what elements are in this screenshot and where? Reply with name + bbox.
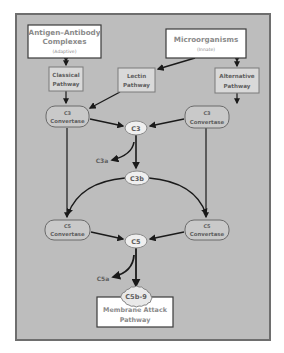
edge-c5-c5a xyxy=(113,255,134,277)
edge-micro-lectin xyxy=(158,58,195,69)
edge-lectin-c3conv xyxy=(90,92,120,108)
c3-convertase-left-line1: C3 xyxy=(64,110,72,116)
c3b-label: C3b xyxy=(130,175,144,183)
complement-pathway-diagram: Antigen–Antibody Complexes (Adaptive) Mi… xyxy=(0,0,284,353)
node-c3: C3 xyxy=(125,121,147,135)
classical-line2: Pathway xyxy=(53,81,80,88)
node-c3-convertase-left: C3 Convertase xyxy=(46,106,89,127)
node-classical-pathway: Classical Pathway xyxy=(49,67,83,91)
edge-c3-c3a xyxy=(112,142,134,160)
c5-convertase-right-line1: C5 xyxy=(203,223,211,229)
c3-label: C3 xyxy=(131,125,140,133)
node-c3-convertase-right: C3 Convertase xyxy=(185,106,229,128)
microorganisms-line1: Microorganisms xyxy=(174,35,238,44)
node-c5-convertase-left: C5 Convertase xyxy=(45,220,90,240)
c3-convertase-right-line1: C3 xyxy=(203,110,211,116)
alternative-line1: Alternative xyxy=(219,73,254,79)
membrane-attack-line2: Pathway xyxy=(120,316,151,324)
edge-c3b-c5convleft xyxy=(68,178,125,214)
node-alternative-pathway: Alternative Pathway xyxy=(215,68,259,93)
antigen-antibody-line1: Antigen–Antibody xyxy=(29,28,101,37)
node-c5: C5 xyxy=(125,234,147,248)
node-c5-convertase-right: C5 Convertase xyxy=(185,220,229,240)
edge-c3convright-c3 xyxy=(150,119,184,126)
c5-label: C5 xyxy=(131,238,141,246)
edge-c5convright-c5 xyxy=(150,232,184,239)
classical-line1: Classical xyxy=(52,72,79,78)
alternative-line2: Pathway xyxy=(224,83,251,90)
antigen-antibody-sub: (Adaptive) xyxy=(53,49,77,54)
antigen-antibody-line2: Complexes xyxy=(43,37,87,46)
c5b9-label: C5b-9 xyxy=(125,293,147,301)
node-microorganisms: Microorganisms (Innate) xyxy=(166,29,246,58)
node-c3b: C3b xyxy=(125,171,149,185)
c3a-label: C3a xyxy=(96,157,109,164)
microorganisms-sub: (Innate) xyxy=(197,47,215,52)
edge-c5convleft-c5 xyxy=(91,232,123,239)
c3-convertase-left-line2: Convertase xyxy=(50,118,85,124)
node-antigen-antibody-complexes: Antigen–Antibody Complexes (Adaptive) xyxy=(28,25,101,58)
node-lectin-pathway: Lectin Pathway xyxy=(118,68,155,92)
lectin-line1: Lectin xyxy=(127,73,146,79)
c3-convertase-right-line2: Convertase xyxy=(190,119,225,125)
edge-c3convleft-c3 xyxy=(90,119,123,126)
c5-convertase-right-line2: Convertase xyxy=(190,231,225,237)
lectin-line2: Pathway xyxy=(123,82,150,89)
c5-convertase-left-line2: Convertase xyxy=(50,231,85,237)
c5a-label: C5a xyxy=(97,275,110,282)
c5-convertase-left-line1: C5 xyxy=(64,223,72,229)
edge-c3b-c5convright xyxy=(149,178,206,214)
